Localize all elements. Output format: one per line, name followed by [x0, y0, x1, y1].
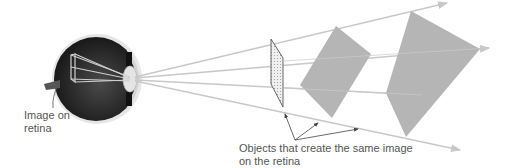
object-small-frame [271, 39, 283, 107]
object-large-quadrilateral [386, 11, 480, 137]
objects-pointer-arrows [285, 114, 358, 140]
object-medium-quadrilateral [300, 26, 371, 118]
image-on-retina-label: Image on retina [24, 109, 84, 135]
objects-same-image-label: Objects that create the same image on th… [239, 142, 419, 168]
